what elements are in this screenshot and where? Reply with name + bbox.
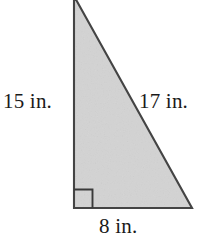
triangle-graphic xyxy=(0,0,208,242)
vertical-leg-length-label: 15 in. xyxy=(3,91,52,112)
triangle-figure: 15 in. 17 in. 8 in. xyxy=(0,0,208,242)
hypotenuse-length-label: 17 in. xyxy=(139,91,188,112)
horizontal-leg-length-label: 8 in. xyxy=(99,216,137,237)
